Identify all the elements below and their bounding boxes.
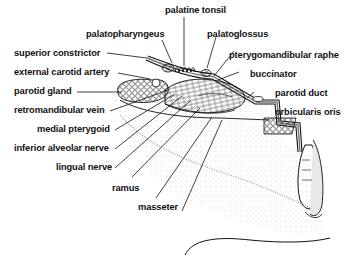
label-medial-pterygoid: medial pterygoid — [37, 124, 110, 135]
label-pterygomandibular-raphe: pterygomandibular raphe — [229, 50, 339, 61]
label-ramus: ramus — [112, 183, 139, 194]
label-external-carotid-artery: external carotid artery — [14, 67, 109, 78]
label-parotid-gland: parotid gland — [14, 86, 72, 97]
anatomy-figure: palatine tonsil palatopharyngeus palatog… — [0, 0, 349, 258]
label-palatoglossus: palatoglossus — [207, 29, 268, 40]
label-superior-constrictor: superior constrictor — [14, 48, 100, 59]
label-palatopharyngeus: palatopharyngeus — [86, 29, 164, 40]
parotid-duct-shape — [253, 97, 263, 102]
label-parotid-duct: parotid duct — [275, 88, 328, 99]
label-lingual-nerve: lingual nerve — [56, 162, 112, 173]
label-inferior-alveolar-nerve: inferior alveolar nerve — [14, 143, 109, 154]
label-palatine-tonsil: palatine tonsil — [165, 5, 226, 16]
label-buccinator: buccinator — [250, 69, 297, 80]
label-orbicularis-oris: orbicularis oris — [275, 107, 341, 118]
label-retromandibular-vein: retromandibular vein — [14, 105, 104, 116]
label-masseter: masseter — [138, 202, 178, 213]
